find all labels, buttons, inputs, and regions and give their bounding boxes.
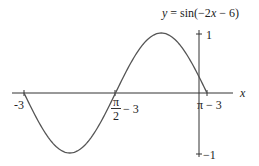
chart-title: y = sin(−2x − 6) bbox=[162, 7, 239, 19]
x-axis-label: x bbox=[240, 87, 245, 99]
plot-area bbox=[0, 0, 259, 166]
y-tick-label-neg1: −1 bbox=[203, 149, 216, 161]
x-tick-label-pi-num: π bbox=[111, 96, 121, 108]
x-tick-label-neg3: -3 bbox=[14, 99, 24, 111]
x-tick-label-pi-den: 2 bbox=[111, 110, 121, 122]
x-tick-label-pi-half-suffix: − 3 bbox=[123, 103, 139, 115]
x-tick-label-pi-minus3: π − 3 bbox=[197, 99, 222, 111]
y-tick-label-1: 1 bbox=[206, 29, 212, 41]
